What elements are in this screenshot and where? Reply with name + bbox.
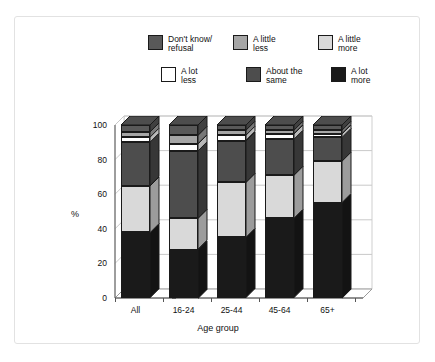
bar-segment (121, 232, 150, 298)
y-axis-ticks: 020406080100 (77, 17, 107, 345)
x-axis-label: Age group (15, 323, 421, 333)
bar-segment (265, 175, 294, 218)
bar-top-face (169, 116, 209, 127)
x-axis-tick-label: 45-64 (256, 305, 304, 315)
y-axis-tick-label: 40 (77, 224, 107, 234)
x-axis-tick-label: All (112, 305, 160, 315)
x-axis-tick-mark (307, 298, 308, 302)
bar-top-face (217, 116, 257, 127)
bar-segment (169, 250, 198, 298)
bar-segment (169, 144, 198, 151)
x-axis-tick-label: 65+ (304, 305, 352, 315)
bar-segment (121, 142, 150, 185)
bar-segment (313, 161, 342, 203)
bar-segment (265, 134, 294, 139)
bar-segment (217, 130, 246, 135)
bar-segment-side (150, 223, 161, 300)
bar-segment (217, 135, 246, 140)
bar-segment (217, 237, 246, 298)
bar-top-face (121, 116, 161, 127)
bar-top-face (313, 116, 353, 127)
x-axis-tick-mark (355, 298, 356, 302)
x-axis-tick-mark (115, 298, 116, 302)
x-axis-tick-mark (211, 298, 212, 302)
x-axis-tick-mark (163, 298, 164, 302)
y-axis-label: % (71, 209, 79, 219)
bar-segment (169, 218, 198, 249)
bar-top-face (265, 116, 305, 127)
bar-segment (121, 186, 150, 233)
bar-segment (313, 203, 342, 298)
bar-segment (313, 130, 342, 133)
y-axis-tick-label: 100 (77, 120, 107, 130)
bar-segment (265, 139, 294, 175)
x-axis-tick-label: 16-24 (160, 305, 208, 315)
bar-segment (217, 182, 246, 237)
bar-segment-side (198, 142, 209, 220)
x-axis-tick-label: 25-44 (208, 305, 256, 315)
y-axis-tick-label: 60 (77, 189, 107, 199)
y-axis-tick-label: 0 (77, 293, 107, 303)
chart-figure: Don't know/ refusalA little lessA little… (14, 16, 420, 344)
bar-segment (121, 137, 150, 142)
bar-segment (265, 130, 294, 133)
y-axis-tick-label: 80 (77, 155, 107, 165)
plot-area: 020406080100 % Age group All16-2425-4445… (15, 17, 421, 345)
bar-segment-side (294, 209, 305, 300)
bar-segment (313, 137, 342, 161)
bar-segment (169, 135, 198, 144)
bar-segment (313, 134, 342, 137)
bar-segment-side (342, 194, 353, 300)
bar-segment (217, 141, 246, 183)
y-axis-tick-label: 20 (77, 258, 107, 268)
bar-segment (265, 218, 294, 298)
y-axis-tick-mark (172, 298, 176, 299)
bar-segment (169, 151, 198, 218)
bar-segment (121, 132, 150, 137)
x-axis-tick-mark (259, 298, 260, 302)
